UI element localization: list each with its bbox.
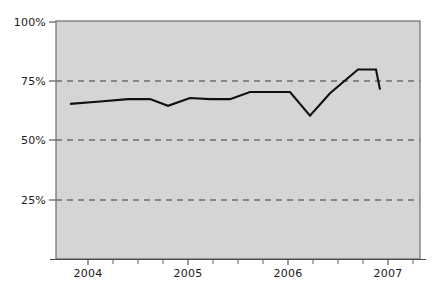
line-chart: 100% 75% 50% 25% 2004 2005 2006 2007 — [0, 0, 442, 294]
chart-container: 100% 75% 50% 25% 2004 2005 2006 2007 — [0, 0, 442, 294]
x-tick-label-2005: 2005 — [174, 267, 203, 280]
x-axis-labels: 2004 2005 2006 2007 — [74, 267, 403, 280]
y-axis-labels: 100% 75% 50% 25% — [14, 16, 46, 207]
x-tick-label-2004: 2004 — [74, 267, 103, 280]
y-tick-label-25: 25% — [21, 194, 46, 207]
x-tick-label-2006: 2006 — [274, 267, 303, 280]
x-tick-label-2007: 2007 — [374, 267, 403, 280]
y-tick-label-50: 50% — [21, 134, 46, 147]
y-tick-label-75: 75% — [21, 75, 46, 88]
y-tickmarks-group — [49, 22, 56, 200]
y-tick-label-100: 100% — [14, 16, 46, 29]
